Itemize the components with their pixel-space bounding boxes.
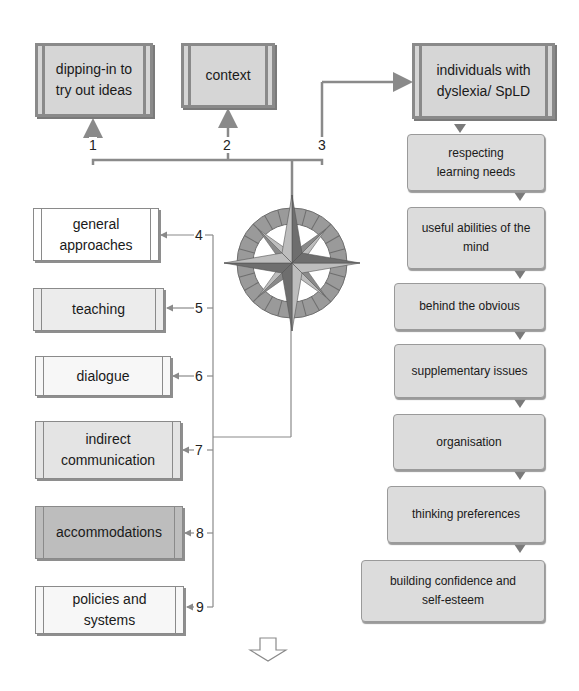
chain-label: building confidence and self-esteem xyxy=(378,572,528,610)
connector-number-7: 7 xyxy=(195,442,203,458)
chain-item-organisation[interactable]: organisation xyxy=(393,414,545,470)
connector-number-9: 9 xyxy=(196,599,204,615)
box-individuals-dyslexia[interactable]: individuals with dyslexia/ SpLD xyxy=(412,43,555,119)
connector-number-1: 1 xyxy=(89,137,97,153)
box-accommodations[interactable]: accommodations xyxy=(35,506,183,559)
box-policies-systems[interactable]: policies and systems xyxy=(35,586,184,634)
chain-item-respecting-learning-needs[interactable]: respecting learning needs xyxy=(407,134,545,191)
box-label: individuals with dyslexia/ SpLD xyxy=(429,60,539,102)
connector-number-8: 8 xyxy=(196,525,204,541)
connector-number-6: 6 xyxy=(195,368,203,384)
box-dialogue[interactable]: dialogue xyxy=(35,356,171,396)
box-indirect-communication[interactable]: indirect communication xyxy=(35,421,181,479)
box-label: dipping-in to try out ideas xyxy=(54,59,134,101)
down-arrow-icon[interactable] xyxy=(248,637,288,663)
box-label: general approaches xyxy=(51,214,141,256)
chain-item-supplementary-issues[interactable]: supplementary issues xyxy=(394,344,545,398)
chain-label: supplementary issues xyxy=(411,362,527,381)
chain-label: respecting learning needs xyxy=(426,144,526,182)
chain-label: useful abilities of the mind xyxy=(413,219,539,257)
chain-label: behind the obvious xyxy=(419,297,520,316)
connector-number-2: 2 xyxy=(223,137,231,153)
box-dipping-in[interactable]: dipping-in to try out ideas xyxy=(35,43,153,117)
chain-label: organisation xyxy=(436,433,501,452)
box-label: indirect communication xyxy=(48,429,168,471)
chain-item-behind-the-obvious[interactable]: behind the obvious xyxy=(394,283,545,330)
box-general-approaches[interactable]: general approaches xyxy=(33,208,159,261)
compass-rose-icon xyxy=(222,193,362,333)
chain-label: thinking preferences xyxy=(412,505,520,524)
box-label: teaching xyxy=(72,299,125,320)
box-label: dialogue xyxy=(77,366,130,387)
connector-number-5: 5 xyxy=(195,300,203,316)
box-label: context xyxy=(205,65,250,86)
chain-item-useful-abilities[interactable]: useful abilities of the mind xyxy=(407,207,545,269)
chain-item-building-confidence[interactable]: building confidence and self-esteem xyxy=(361,560,545,622)
connector-number-4: 4 xyxy=(195,227,203,243)
connector-number-3: 3 xyxy=(318,137,326,153)
box-label: policies and systems xyxy=(55,589,165,631)
box-label: accommodations xyxy=(56,522,162,543)
box-teaching[interactable]: teaching xyxy=(33,288,164,331)
box-context[interactable]: context xyxy=(181,43,275,108)
chain-item-thinking-preferences[interactable]: thinking preferences xyxy=(387,486,545,543)
